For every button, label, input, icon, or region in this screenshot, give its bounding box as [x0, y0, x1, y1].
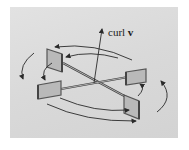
- vector-v-text: v: [128, 26, 134, 38]
- vane-right: [126, 69, 146, 85]
- vane-top-left: [47, 49, 62, 72]
- curl-text: curl: [108, 26, 128, 38]
- paddle-wheel-diagram: [0, 0, 189, 150]
- vane-bottom-right: [124, 95, 139, 119]
- curl-v-label: curl v: [108, 26, 133, 38]
- shafts: [61, 63, 130, 99]
- vane-left: [38, 81, 61, 99]
- curl-v-axis-arrow: [94, 29, 102, 83]
